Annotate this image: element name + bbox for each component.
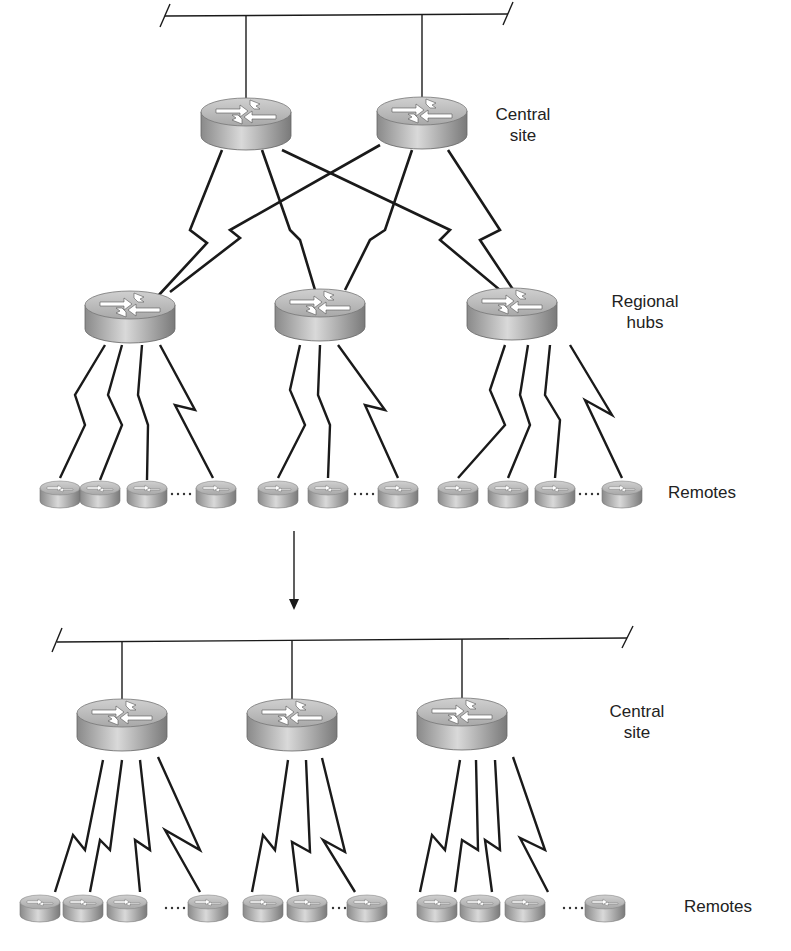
top-remotes-label: Remotes [668, 482, 758, 503]
top-central-routers [201, 97, 467, 150]
down-arrow-icon [289, 531, 299, 610]
network-diagram [0, 0, 791, 951]
bottom-remotes [20, 895, 625, 922]
bottom-backbone [52, 626, 633, 700]
top-remotes [40, 481, 642, 508]
bottom-central-routers [77, 698, 507, 751]
top-backbone [160, 2, 513, 98]
regional-hubs-label: Regional hubs [600, 291, 690, 333]
bottom-remotes-label: Remotes [684, 896, 774, 917]
top-wan-links [145, 145, 520, 310]
top-hub-to-remote-links [60, 345, 622, 480]
bottom-central-site-label: Central site [602, 701, 672, 743]
top-central-site-label: Central site [488, 104, 558, 146]
top-regional-hubs [85, 288, 557, 343]
bottom-links [55, 757, 548, 892]
